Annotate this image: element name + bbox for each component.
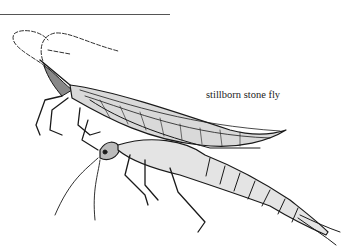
caption-text: stillborn stone fly bbox=[206, 89, 280, 100]
stonefly-drawing bbox=[0, 0, 345, 252]
